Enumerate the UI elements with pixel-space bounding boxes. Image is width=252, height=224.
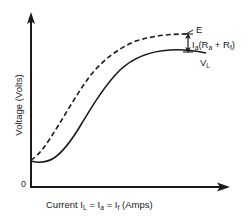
drop-close: ) [232,39,235,50]
x-axis-sub-L: L [83,204,87,211]
chart-plot-area [0,0,252,224]
drop-open-r: (R [198,39,208,50]
drop-r2-sub: f [230,44,232,51]
drop-r1-sub: a [208,44,212,51]
x-axis-sub-a: a [100,204,104,211]
x-axis-eq1: = I [87,199,100,210]
x-axis [30,183,230,192]
origin-tick-label: 0 [21,180,26,189]
y-axis-title: Voltage (Volts) [14,46,24,164]
x-axis-title: Current IL = Ia = If (Amps) [46,200,153,210]
series-label-E: E [196,25,202,35]
series-VL-curve [31,50,206,163]
x-axis-eq2: = I [104,199,117,210]
x-axis-title-prefix: Current I [46,199,83,210]
chart-figure: Voltage (Volts) 0 Current IL = Ia = If (… [0,0,252,224]
series-label-VL: VL [200,58,210,68]
series-E-curve [31,34,186,160]
voltage-drop-label: Ia(Ra + Rf) [192,40,235,50]
vl-sub: L [206,62,210,69]
e-label-leader [186,30,193,34]
drop-plus-r: + R [212,39,230,50]
drop-i-sub: a [195,44,199,51]
x-axis-title-suffix: (Amps) [119,199,152,210]
